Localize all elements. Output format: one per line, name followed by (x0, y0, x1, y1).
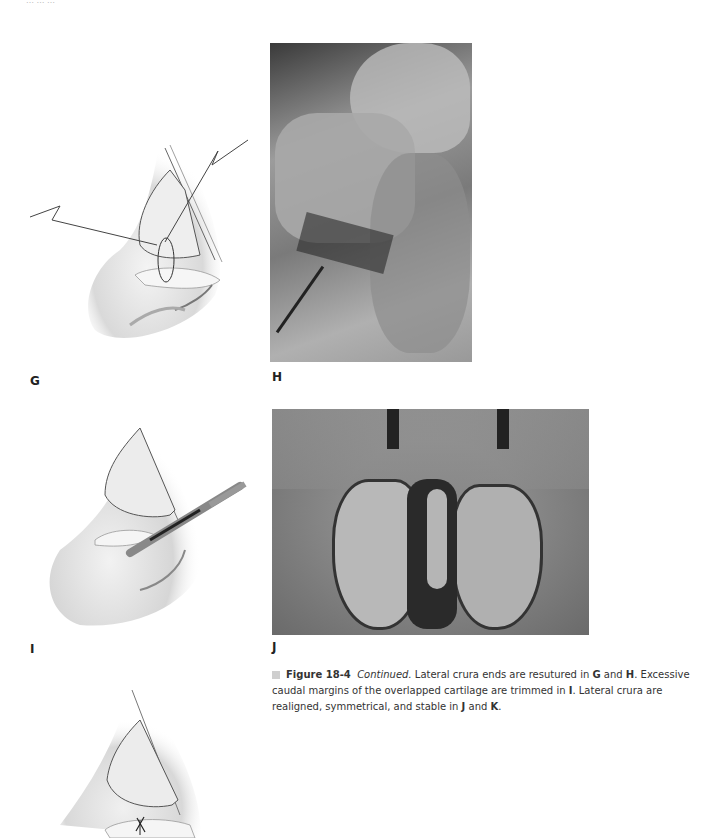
illustration-i (0, 400, 260, 640)
running-header-fragment: … … … (26, 0, 55, 5)
illustration-g (0, 80, 260, 370)
caption-text: . (498, 701, 501, 712)
caption-text: and (601, 669, 626, 680)
panel-label-i: I (30, 642, 34, 656)
caption-marker-icon (272, 671, 280, 679)
panel-label-h: H (272, 370, 282, 384)
panel-label-j: J (272, 640, 276, 654)
caption-ref-h: H (626, 669, 634, 680)
caption-continued: Continued. (357, 669, 412, 680)
caption-text: and (465, 701, 490, 712)
panel-label-g: G (30, 374, 40, 388)
caption-text: Lateral crura ends are resutured in (412, 669, 593, 680)
photo-h (270, 43, 472, 362)
photo-j (272, 409, 589, 635)
figure-number: Figure 18-4 (286, 669, 351, 680)
figure-caption: Figure 18-4 Continued. Lateral crura end… (272, 667, 697, 715)
illustration-k (0, 665, 260, 838)
caption-ref-g: G (592, 669, 600, 680)
